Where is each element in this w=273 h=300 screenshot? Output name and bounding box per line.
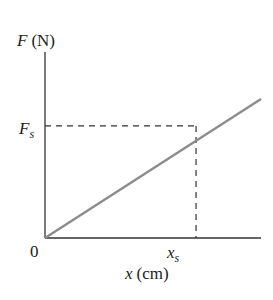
series: [45, 99, 261, 238]
y-tick-label-fs: Fs: [18, 119, 34, 141]
origin-label: 0: [30, 242, 39, 261]
chart-svg: F(N) Fs 0 xs x(cm): [0, 0, 273, 300]
y-axis-label: F(N): [16, 31, 55, 50]
series-line-0: [45, 99, 261, 238]
axes: [45, 52, 261, 238]
x-tick-label-xs: xs: [166, 243, 180, 265]
guide-lines: [45, 126, 196, 238]
x-axis-label: x(cm): [124, 264, 169, 283]
